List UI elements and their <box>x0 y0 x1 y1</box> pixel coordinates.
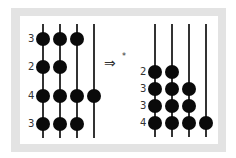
bead <box>165 116 179 130</box>
row-count-label: 2 <box>140 67 146 77</box>
row-count-label: 3 <box>28 34 34 44</box>
row-count-label: 4 <box>140 118 146 128</box>
bead <box>36 117 50 131</box>
bead <box>182 99 196 113</box>
arrow-mark: * <box>122 53 126 61</box>
row-count-label: 3 <box>140 101 146 111</box>
bead <box>70 89 84 103</box>
bead <box>148 65 162 79</box>
bead <box>165 65 179 79</box>
bead <box>165 82 179 96</box>
bead <box>182 82 196 96</box>
bead <box>165 99 179 113</box>
bead <box>199 116 213 130</box>
bead <box>53 32 67 46</box>
bead <box>36 60 50 74</box>
implies-arrow-icon: ⇒ <box>104 56 116 70</box>
row-count-label: 2 <box>28 62 34 72</box>
bead <box>53 89 67 103</box>
abacus-rod <box>93 24 95 138</box>
bead <box>182 116 196 130</box>
bead <box>36 89 50 103</box>
bead <box>148 82 162 96</box>
bead <box>53 60 67 74</box>
bead <box>70 117 84 131</box>
bead <box>148 116 162 130</box>
row-count-label: 3 <box>28 119 34 129</box>
bead <box>53 117 67 131</box>
row-count-label: 3 <box>140 84 146 94</box>
bead <box>36 32 50 46</box>
bead <box>70 32 84 46</box>
row-count-label: 4 <box>28 91 34 101</box>
bead <box>148 99 162 113</box>
bead <box>87 89 101 103</box>
